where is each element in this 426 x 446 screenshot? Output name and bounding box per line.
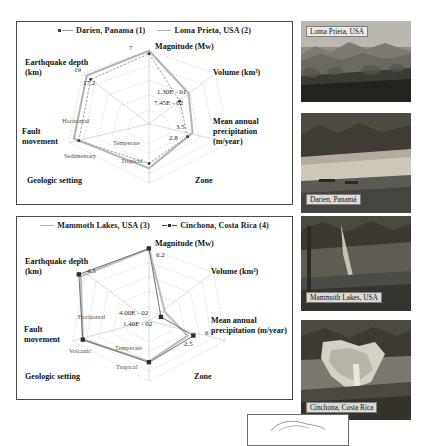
axis-title-precipitation: Mean annual precipitation (m/year) <box>211 316 289 336</box>
next-figure-partial-shape <box>265 418 327 436</box>
value-volume-2: 1.40E - 02 <box>123 320 152 328</box>
value-volume-1: 1.30E - 01 <box>157 88 186 96</box>
axis-title-fault-movement: Fault movement <box>24 325 80 345</box>
radar-panel-2: Mammoth Lakes, USA (3) Cinchona, Costa R… <box>16 216 293 400</box>
category-zone-1: Temperate <box>113 139 140 146</box>
category-zone-2: Tropical <box>116 363 137 370</box>
photo-caption: Mammoth Lakes, USA <box>306 292 382 303</box>
axis-title-precipitation: Mean annual precipitation (m/year) <box>213 117 289 147</box>
value-precip-1: 6 <box>205 329 209 337</box>
axis-title-geologic-setting: Geologic setting <box>25 372 80 382</box>
value-magnitude: 6.2 <box>156 251 165 259</box>
value-depth-1: 7 <box>79 256 83 264</box>
photo-caption: Darien, Panamá <box>306 194 361 205</box>
axis-title-fault-movement: Fault movement <box>22 127 78 147</box>
category-fault: Horizontal <box>78 313 105 320</box>
value-depth-2: 17.2 <box>83 79 95 87</box>
axis-title-zone: Zone <box>194 372 212 382</box>
axis-title-earthquake-depth: Earthquake depth (km) <box>25 58 95 78</box>
axis-title-zone: Zone <box>195 176 213 186</box>
photo-loma-prieta: Loma Prieta, USA <box>301 21 411 102</box>
value-volume-2: 7.45E - 02 <box>154 99 183 107</box>
value-depth-2: 4.5 <box>87 267 96 275</box>
category-zone-2: Tropical <box>121 157 142 164</box>
axis-title-geologic-setting: Geologic setting <box>27 176 82 186</box>
category-geology: Sedimentary <box>64 152 96 159</box>
radar-panel-1: Darien, Panama (1) Loma Prieta, USA (2) <box>16 21 293 205</box>
photo-mammoth-lakes: Mammoth Lakes, USA <box>301 216 411 311</box>
photo-caption: Cinchona, Costa Rica <box>306 402 377 413</box>
value-volume-1: 4.00E - 02 <box>119 309 148 317</box>
photo-darien: Darien, Panamá <box>301 113 411 213</box>
value-precip-1: 3.5 <box>176 123 185 131</box>
axis-title-magnitude: Magnitude (Mw) <box>155 239 214 249</box>
photo-caption: Loma Prieta, USA <box>306 26 368 37</box>
category-geology: Volcanic <box>69 347 91 354</box>
axis-title-volume: Volume (km³) <box>213 68 260 78</box>
value-magnitude: 7 <box>129 44 133 52</box>
value-precip-2: 2.5 <box>184 340 193 348</box>
axis-title-volume: Volume (km³) <box>211 267 258 277</box>
photo-cinchona: Cinchona, Costa Rica <box>301 320 411 420</box>
category-fault: Horizontal <box>62 117 89 124</box>
value-precip-2: 2.8 <box>169 134 178 142</box>
value-depth-1: 19 <box>74 66 81 74</box>
category-zone-1: Temperate <box>115 344 142 351</box>
axis-title-magnitude: Magnitude (Mw) <box>155 42 214 52</box>
axis-title-earthquake-depth: Earthquake depth (km) <box>25 257 95 277</box>
